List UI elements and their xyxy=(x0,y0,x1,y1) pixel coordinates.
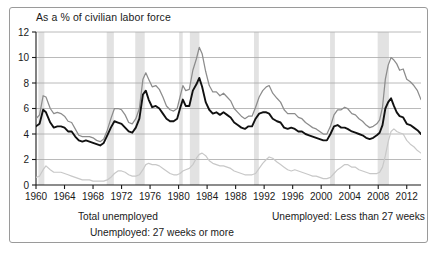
x-tick-label: 1992 xyxy=(253,191,276,202)
x-tick-label: 1980 xyxy=(167,191,190,202)
x-tick-label: 1996 xyxy=(282,191,305,202)
y-tick-label: 4 xyxy=(23,129,29,140)
y-tick-label: 2 xyxy=(23,154,29,165)
x-tick-label: 1988 xyxy=(225,191,248,202)
legend-label-more27: Unemployed: 27 weeks or more xyxy=(90,227,234,238)
x-tick-label: 1968 xyxy=(82,191,105,202)
x-tick-label: 2000 xyxy=(310,191,333,202)
x-tick-label: 2004 xyxy=(339,191,362,202)
x-tick-label: 2008 xyxy=(367,191,390,202)
x-tick-label: 2012 xyxy=(396,191,419,202)
x-tick-label: 1972 xyxy=(110,191,133,202)
legend-label-total: Total unemployed xyxy=(78,211,158,222)
legend-label-less27: Unemployed: Less than 27 weeks xyxy=(272,211,425,222)
x-tick-label: 1960 xyxy=(25,191,48,202)
legend-item-total-unemployed[interactable]: Total unemployed xyxy=(48,211,158,222)
legend-item-27-weeks-or-more[interactable]: Unemployed: 27 weeks or more xyxy=(60,227,234,238)
series-line xyxy=(36,47,421,141)
x-tick-label: 1976 xyxy=(139,191,162,202)
y-tick-label: 10 xyxy=(18,52,30,63)
legend-item-less-than-27-weeks[interactable]: Unemployed: Less than 27 weeks xyxy=(242,211,425,222)
x-tick-label: 1964 xyxy=(53,191,76,202)
y-tick-label: 0 xyxy=(23,180,29,191)
x-tick-label: 1984 xyxy=(196,191,219,202)
series-line xyxy=(36,78,421,146)
y-tick-label: 8 xyxy=(23,78,29,89)
y-tick-label: 12 xyxy=(18,27,30,38)
y-tick-label: 6 xyxy=(23,103,29,114)
